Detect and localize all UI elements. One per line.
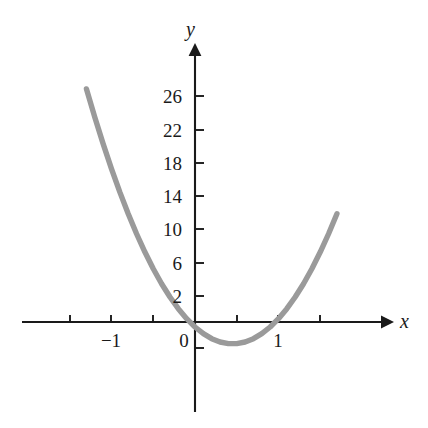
x-tick-label-0: 0 xyxy=(164,331,204,350)
y-tick-label-22: 22 xyxy=(142,121,182,140)
y-axis-label: y xyxy=(186,19,195,39)
x-axis-arrow-icon xyxy=(381,316,394,329)
x-axis-label: x xyxy=(400,311,409,331)
y-axis-ticks xyxy=(195,96,204,348)
x-tick-label-1: 1 xyxy=(258,331,298,350)
parabola-plot xyxy=(0,0,428,428)
y-tick-label-10: 10 xyxy=(142,220,182,239)
y-tick-label-26: 26 xyxy=(142,87,182,106)
parabola-curve xyxy=(86,89,337,344)
y-tick-label-2: 2 xyxy=(142,287,182,306)
chart-figure: 26 22 18 14 10 6 2 −1 0 1 y x xyxy=(0,0,428,428)
x-tick-label-minus-1: −1 xyxy=(91,331,131,350)
y-tick-label-14: 14 xyxy=(142,187,182,206)
y-tick-label-6: 6 xyxy=(142,254,182,273)
y-axis-arrow-icon xyxy=(189,43,202,56)
y-tick-label-18: 18 xyxy=(142,154,182,173)
